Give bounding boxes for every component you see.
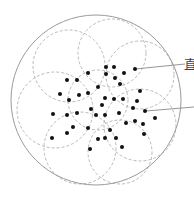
point-dot: [96, 137, 100, 141]
point-dot: [122, 71, 126, 75]
dashed-circle: [78, 19, 146, 87]
point-dot: [86, 71, 90, 75]
outer-circle: [11, 15, 181, 185]
point-dot: [104, 72, 108, 76]
point-dot: [86, 91, 90, 95]
point-dot: [89, 107, 93, 111]
point-dot: [118, 82, 122, 86]
point-dot: [65, 113, 69, 117]
callout-label: 直: [184, 58, 194, 71]
point-dot: [113, 76, 117, 80]
point-dot: [104, 65, 108, 69]
point-dot: [112, 97, 116, 101]
dots: [50, 65, 157, 151]
point-dot: [114, 136, 118, 140]
point-dot: [71, 125, 75, 129]
point-dot: [58, 92, 62, 96]
point-dot: [75, 111, 79, 115]
point-dot: [103, 136, 107, 140]
dashed-circle: [17, 72, 93, 148]
point-dot: [65, 78, 69, 82]
point-dot: [100, 103, 104, 107]
point-dot: [77, 93, 81, 97]
dashed-circles: [17, 19, 176, 184]
circle-packing-diagram: [0, 0, 194, 197]
point-dot: [120, 145, 124, 149]
leader-line: [135, 64, 185, 69]
point-dot: [112, 65, 116, 69]
point-dot: [153, 116, 157, 120]
point-dot: [143, 109, 147, 113]
point-dot: [86, 126, 90, 130]
point-dot: [103, 113, 107, 117]
point-dot: [88, 147, 92, 151]
leader-line: [146, 107, 194, 111]
point-dot: [96, 85, 100, 89]
point-dot: [135, 99, 139, 103]
dashed-circle: [44, 112, 116, 184]
point-dot: [124, 121, 128, 125]
point-dot: [67, 98, 71, 102]
point-dot: [142, 132, 146, 136]
point-dot: [141, 122, 145, 126]
point-dot: [138, 89, 142, 93]
point-dot: [75, 78, 79, 82]
point-dot: [117, 111, 121, 115]
point-dot: [103, 96, 107, 100]
point-dot: [50, 136, 54, 140]
point-dot: [51, 112, 55, 116]
point-dot: [121, 97, 125, 101]
point-dot: [65, 131, 69, 135]
dashed-circle: [106, 41, 174, 109]
point-dot: [94, 113, 98, 117]
point-dot: [108, 128, 112, 132]
point-dot: [133, 119, 137, 123]
point-dot: [133, 67, 137, 71]
point-dot: [131, 106, 135, 110]
